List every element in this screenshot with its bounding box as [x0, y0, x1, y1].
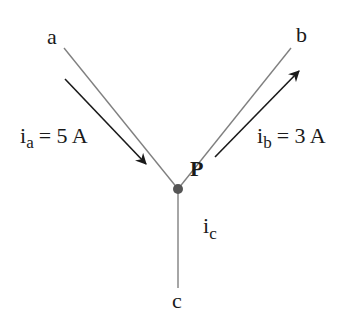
current-ic-label: ic [203, 213, 217, 243]
current-ib-label: ib= 3 A [257, 123, 326, 152]
node-p-label: P [190, 156, 203, 181]
ia-value: = 5 A [39, 123, 88, 148]
ia-sub: a [26, 133, 34, 152]
current-ia-label: ia= 5 A [20, 123, 88, 152]
terminal-b-label: b [296, 22, 307, 47]
terminal-a-label: a [47, 24, 57, 49]
node-p-dot [173, 184, 183, 194]
ib-sub: b [263, 133, 272, 152]
circuit-diagram: a b c P ia= 5 A ib= 3 A ic [0, 0, 362, 332]
arrow-ia-icon [65, 79, 146, 164]
ic-sub: c [209, 224, 217, 243]
wire-a [64, 48, 178, 189]
ib-value: = 3 A [277, 123, 326, 148]
terminal-c-label: c [172, 288, 182, 313]
